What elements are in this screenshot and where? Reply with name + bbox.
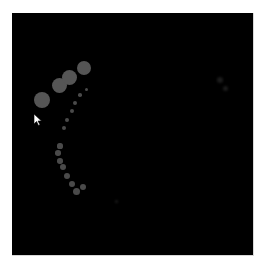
small-dot — [73, 188, 80, 195]
faint-mark — [115, 200, 118, 203]
small-dot — [60, 164, 66, 170]
small-dot — [57, 143, 62, 148]
small-dot — [78, 93, 82, 97]
small-dot — [55, 150, 61, 156]
small-dot — [80, 184, 86, 190]
large-circle — [34, 92, 50, 108]
large-circle — [77, 61, 91, 75]
small-dot — [57, 158, 63, 164]
small-dot — [85, 88, 88, 91]
render-canvas[interactable] — [12, 13, 254, 256]
large-circle — [62, 70, 77, 85]
faint-mark — [223, 86, 228, 91]
mouse-cursor-icon — [34, 114, 42, 126]
faint-mark — [217, 77, 223, 83]
small-dot — [73, 101, 77, 105]
